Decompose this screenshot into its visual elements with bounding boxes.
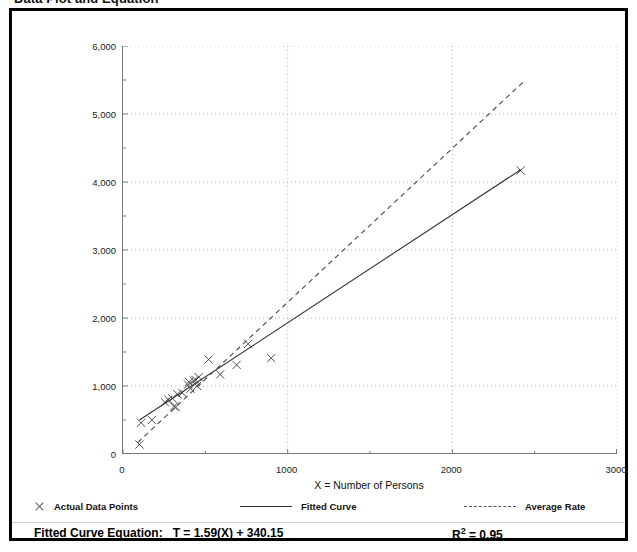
legend-item-average-rate: Average Rate <box>464 501 585 512</box>
data-point <box>216 370 224 378</box>
data-point <box>233 361 241 369</box>
data-point <box>205 355 213 363</box>
r-squared-exponent: 2 <box>461 526 466 536</box>
data-point <box>148 416 156 424</box>
page-title: Data Plot and Equation <box>14 0 158 6</box>
y-tick-label: 2,000 <box>58 313 116 324</box>
y-tick-label: 6,000 <box>58 41 116 52</box>
x-tick-label: 1000 <box>276 464 297 475</box>
x-marker-icon <box>34 501 45 512</box>
data-point <box>267 354 275 362</box>
y-tick-label: 3,000 <box>58 245 116 256</box>
data-point <box>195 373 203 381</box>
equation-expression: T = 1.59(X) + 340.15 <box>173 526 284 540</box>
x-axis-title: X = Number of Persons <box>122 479 616 491</box>
y-tick-label: 0 <box>58 449 116 460</box>
x-tick-label: 2000 <box>441 464 462 475</box>
x-tick-label: 0 <box>119 464 124 475</box>
y-tick-label: 1,000 <box>58 381 116 392</box>
x-tick-label: 3000 <box>605 464 626 475</box>
chart-legend: Actual Data Points Fitted Curve Average … <box>12 498 625 522</box>
plot-area <box>122 46 616 454</box>
legend-label-actual-data-points: Actual Data Points <box>54 501 138 512</box>
y-tick-label: 4,000 <box>58 177 116 188</box>
equation-label: Fitted Curve Equation: <box>34 526 163 540</box>
fitted-curve-equation: Fitted Curve Equation: T = 1.59(X) + 340… <box>34 526 283 540</box>
r-squared-value: R2 = 0.95 <box>452 526 503 542</box>
figure-frame: T = Average Vehicle Trip Ends 01,0002,00… <box>9 8 628 541</box>
y-tick-label: 5,000 <box>58 109 116 120</box>
data-point <box>137 419 145 427</box>
legend-label-fitted-curve: Fitted Curve <box>301 501 356 512</box>
legend-label-average-rate: Average Rate <box>525 501 585 512</box>
equation-footer: Fitted Curve Equation: T = 1.59(X) + 340… <box>12 523 625 544</box>
legend-item-fitted-curve: Fitted Curve <box>240 501 356 512</box>
r-squared-number: = 0.95 <box>469 528 503 542</box>
dashed-line-icon <box>464 506 516 507</box>
plot-canvas <box>123 46 617 454</box>
r-squared-symbol: R <box>452 528 461 542</box>
legend-item-actual-data-points: Actual Data Points <box>34 501 138 512</box>
solid-line-icon <box>240 506 292 507</box>
data-point <box>517 166 525 174</box>
